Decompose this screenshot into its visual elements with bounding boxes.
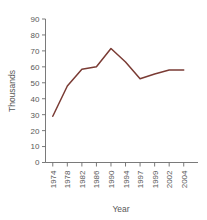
x-tick-label: 2004 <box>180 170 189 188</box>
x-tick-label: 1997 <box>136 170 145 188</box>
x-axis-title: Year <box>112 204 129 214</box>
y-tick-label: 10 <box>31 142 40 151</box>
y-tick-label: 80 <box>31 31 40 40</box>
y-tick-label: 20 <box>31 127 40 136</box>
x-tick-label: 1986 <box>92 170 101 188</box>
x-axis-ticks: 1974197819821986199019941997199920022004 <box>49 163 189 189</box>
x-tick-label: 1974 <box>49 170 58 188</box>
x-tick-label: 1978 <box>63 170 72 188</box>
x-tick-label: 1982 <box>78 170 87 188</box>
y-tick-label: 70 <box>31 47 40 56</box>
y-tick-label: 60 <box>31 63 40 72</box>
y-tick-label: 0 <box>35 158 40 167</box>
x-tick-label: 2002 <box>165 170 174 188</box>
x-tick-label: 1999 <box>151 170 160 188</box>
line-chart-figure: 0102030405060708090 19741978198219861990… <box>0 0 207 220</box>
y-tick-label: 40 <box>31 95 40 104</box>
x-tick-label: 1990 <box>107 170 116 188</box>
y-tick-label: 30 <box>31 111 40 120</box>
data-series-line <box>53 49 184 117</box>
y-axis-ticks: 0102030405060708090 <box>31 15 46 168</box>
x-tick-label: 1994 <box>122 170 131 188</box>
y-axis-title: Thousands <box>7 70 17 112</box>
chart-plot-area: 0102030405060708090 19741978198219861990… <box>0 0 207 220</box>
y-tick-label: 90 <box>31 15 40 24</box>
y-tick-label: 50 <box>31 79 40 88</box>
